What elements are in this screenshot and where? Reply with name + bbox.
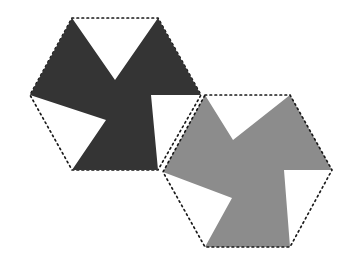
pinwheel-hexagons-figure [0, 0, 354, 273]
figure-canvas [0, 0, 354, 273]
